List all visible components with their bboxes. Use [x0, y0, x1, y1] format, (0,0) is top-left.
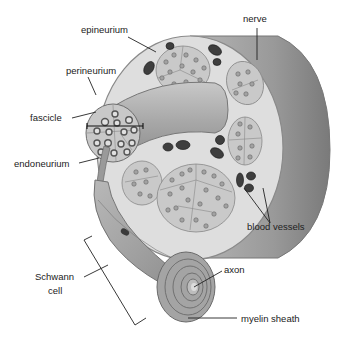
- label-epineurium: epineurium: [81, 24, 128, 35]
- label-schwann-cell-line2: cell: [48, 285, 62, 296]
- label-myelin-sheath: myelin sheath: [241, 313, 300, 324]
- label-axon: axon: [224, 264, 245, 275]
- label-endoneurium: endoneurium: [14, 158, 70, 169]
- label-nerve: nerve: [243, 13, 267, 24]
- label-perineurium: perineurium: [66, 65, 116, 76]
- myelin-sheath: [157, 252, 215, 322]
- fascicle-right-middle: [228, 117, 262, 165]
- label-schwann-cell-line1: Schwann: [35, 271, 74, 282]
- label-blood-vessels: blood vessels: [247, 221, 305, 232]
- fascicle-bottom-left: [122, 161, 162, 205]
- label-fascicle: fascicle: [30, 112, 62, 123]
- nerve-diagram: epineurium nerve perineurium fascicle en…: [0, 0, 345, 345]
